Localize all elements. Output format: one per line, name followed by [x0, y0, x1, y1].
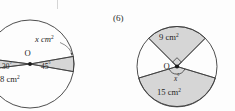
- figure-page: O 45° 30° x cm2 8 cm2: [0, 0, 235, 111]
- figure-left-group: O 45° 30° x cm2 8 cm2: [0, 20, 74, 108]
- left-figure-centre-label: O: [24, 48, 30, 58]
- left-figure-centre-dot: [28, 62, 32, 66]
- right-figure-centre-label: O: [163, 61, 169, 71]
- left-figure-unknown-area-label: x cm2: [34, 34, 54, 44]
- right-figure-bottom-area-label: 15 cm2: [157, 87, 181, 97]
- figure-right-group: O 9 cm2 x° 15 cm2: [137, 26, 217, 106]
- left-figure-angle-left-label: 30°: [2, 61, 12, 71]
- left-figure-known-area-label: 8 cm2: [0, 74, 20, 84]
- right-figure-centre-dot: [175, 64, 179, 68]
- question-number-6: (6): [113, 13, 124, 23]
- left-figure-leader-arrow: [60, 43, 72, 56]
- left-figure-angle-right-label: 45°: [41, 61, 51, 71]
- left-figure-right-sector: [30, 56, 74, 71]
